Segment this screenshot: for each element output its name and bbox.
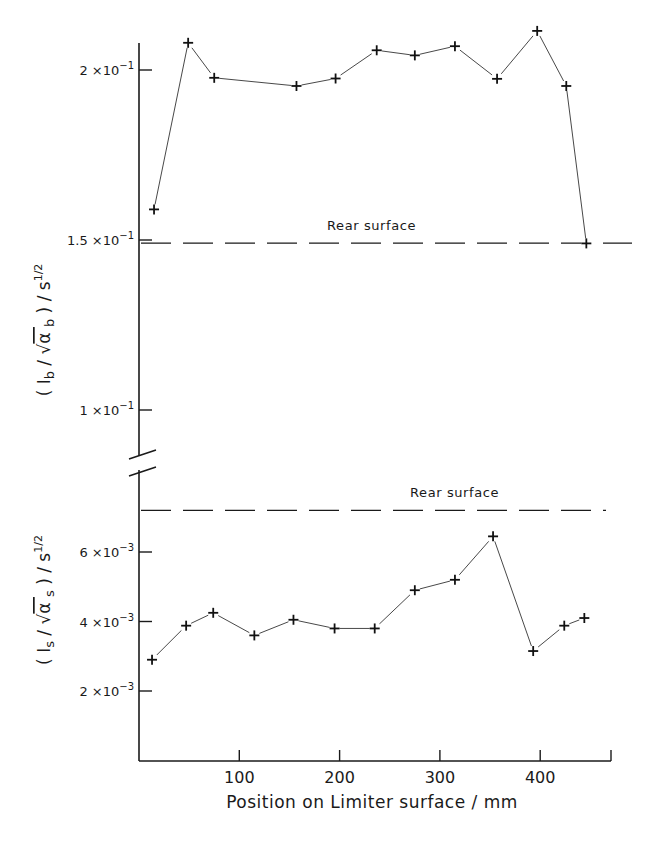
x-axis-title: Position on Limiter surface / mm [226, 792, 518, 812]
limiter-surface-figure: 2 ×10−11.5 ×10−11 ×10−1 6 ×10−34 ×10−32 … [0, 0, 647, 847]
y-tick-label: 1 ×10−1 [79, 400, 134, 418]
plus-marker-icon [581, 238, 591, 248]
plus-marker-icon [410, 50, 420, 60]
svg-text:( Is / √α s ) / s1/2: ( Is / √α s ) / s1/2 [32, 535, 57, 665]
y-tick-label: 1.5 ×10−1 [67, 230, 134, 248]
plus-marker-icon [559, 621, 569, 631]
svg-text:( Ib / √α b ) / s1/2: ( Ib / √α b ) / s1/2 [32, 264, 57, 397]
top-y-axis-title: ( Ib / √α b ) / s1/2 [32, 264, 57, 397]
rear-surface-reference-lines [141, 243, 632, 510]
y-tick-label: 2 ×10−1 [79, 60, 134, 78]
plus-marker-icon [370, 623, 380, 633]
plus-marker-icon [209, 73, 219, 83]
plus-marker-icon [450, 575, 460, 585]
x-tick-label: 100 [224, 768, 255, 787]
x-ticks: 100200300400 [224, 750, 555, 787]
plus-marker-icon [488, 531, 498, 541]
top-rear-surface-label: Rear surface [327, 218, 416, 233]
plus-marker-icon [147, 655, 157, 665]
plus-marker-icon [561, 81, 571, 91]
plus-marker-icon [183, 38, 193, 48]
x-tick-label: 200 [324, 768, 355, 787]
plus-marker-icon [532, 26, 542, 36]
top-series-line [154, 31, 586, 244]
axis-break-mark-upper [129, 450, 156, 459]
plus-marker-icon [331, 74, 341, 84]
y-tick-label: 6 ×10−3 [79, 542, 134, 560]
x-tick-label: 400 [525, 768, 556, 787]
axes [129, 43, 611, 761]
plus-marker-icon [528, 646, 538, 656]
bottom-rear-surface-label: Rear surface [410, 485, 499, 500]
data-series [147, 26, 591, 665]
plus-marker-icon [410, 585, 420, 595]
bottom-y-ticks: 6 ×10−34 ×10−32 ×10−3 [79, 542, 152, 699]
y-tick-label: 2 ×10−3 [79, 681, 134, 699]
plus-marker-icon [372, 45, 382, 55]
plus-marker-icon [291, 81, 301, 91]
y-tick-label: 4 ×10−3 [79, 612, 134, 630]
axis-break-mark-lower [129, 467, 156, 476]
plus-marker-icon [492, 74, 502, 84]
plus-marker-icon [450, 41, 460, 51]
bottom-series-line [152, 536, 584, 659]
plus-marker-icon [149, 204, 159, 214]
x-tick-label: 300 [425, 768, 456, 787]
plus-marker-icon [288, 615, 298, 625]
plus-marker-icon [249, 630, 259, 640]
plus-marker-icon [208, 608, 218, 618]
plus-marker-icon [330, 623, 340, 633]
bottom-y-axis-title: ( Is / √α s ) / s1/2 [32, 535, 57, 665]
plus-marker-icon [579, 613, 589, 623]
plus-marker-icon [181, 621, 191, 631]
